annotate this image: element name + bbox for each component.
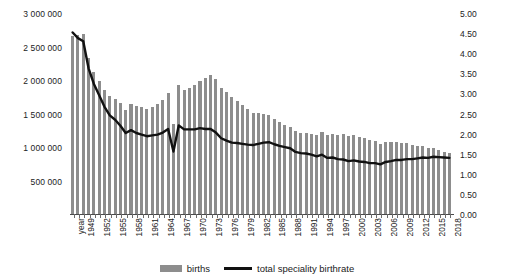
x-axis-tick-label: 1955 (118, 218, 128, 236)
right-axis-tick: 3.50 (452, 69, 512, 79)
right-axis-tick: 3.00 (452, 89, 512, 99)
x-axis-tick-label: 1991 (309, 218, 319, 236)
right-axis-tick: 5.00 (452, 9, 512, 19)
x-axis-tick-label: 1973 (214, 218, 224, 236)
left-axis-tick: 3 000 000 (0, 9, 70, 19)
x-axis-tick-label: 1964 (166, 218, 176, 236)
bar-swatch-icon (160, 265, 182, 272)
right-axis-tick: 1.00 (452, 170, 512, 180)
x-axis-tick-labels: year194919521955195819611964196719701973… (70, 216, 452, 256)
chart-container: 500 0001 000 0001 500 0002 000 0002 500 … (0, 0, 514, 280)
legend-item-birthrate: total speciality birthrate (224, 263, 354, 274)
legend-label-births: births (187, 263, 210, 274)
right-axis-ticks: 0.000.501.001.502.002.503.003.504.004.50… (452, 0, 512, 220)
x-axis-tick-label: year (76, 218, 86, 234)
x-axis-tick-label: 1949 (86, 218, 96, 236)
left-axis-tick: 1 000 000 (0, 143, 70, 153)
chart-legend: births total speciality birthrate (0, 259, 514, 277)
x-axis-tick-label: 1976 (230, 218, 240, 236)
x-axis-tick-label: 1961 (150, 218, 160, 236)
left-axis-tick: 2 500 000 (0, 43, 70, 53)
right-axis-tick: 2.50 (452, 110, 512, 120)
x-axis-tick-label: 2003 (373, 218, 383, 236)
plot-area (70, 14, 452, 215)
x-axis-tick-label: 2012 (421, 218, 431, 236)
x-axis-tick-label: 2018 (453, 218, 463, 236)
right-axis-tick: 4.50 (452, 29, 512, 39)
x-axis-tick-label: 1952 (102, 218, 112, 236)
right-axis-tick: 4.00 (452, 49, 512, 59)
x-axis-tick-label: 1994 (325, 218, 335, 236)
right-axis-tick: 0.50 (452, 190, 512, 200)
x-axis-tick-label: 1988 (293, 218, 303, 236)
x-axis-tick-label: 2000 (357, 218, 367, 236)
x-axis-tick-label: 1997 (341, 218, 351, 236)
x-axis-tick-label: 2015 (437, 218, 447, 236)
x-axis-tick-label: 1979 (246, 218, 256, 236)
right-axis-tick: 2.00 (452, 130, 512, 140)
x-axis-tick-label: 1967 (182, 218, 192, 236)
x-axis-tick-label: 1958 (134, 218, 144, 236)
left-axis-tick: 1 500 000 (0, 110, 70, 120)
x-axis-tick-label: 2009 (405, 218, 415, 236)
left-axis-ticks: 500 0001 000 0001 500 0002 000 0002 500 … (0, 0, 70, 220)
left-axis-tick: 2 000 000 (0, 76, 70, 86)
x-axis-tick-label: 1970 (198, 218, 208, 236)
x-axis-tick-label: 1982 (262, 218, 272, 236)
birthrate-line-layer (70, 14, 452, 215)
birthrate-line (73, 32, 450, 164)
legend-item-births: births (160, 263, 210, 274)
line-swatch-icon (224, 267, 252, 270)
legend-label-birthrate: total speciality birthrate (257, 263, 354, 274)
x-axis-tick-label: 1985 (277, 218, 287, 236)
left-axis-tick: 500 000 (0, 177, 70, 187)
right-axis-tick: 1.50 (452, 150, 512, 160)
x-axis-tick-label: 2006 (389, 218, 399, 236)
